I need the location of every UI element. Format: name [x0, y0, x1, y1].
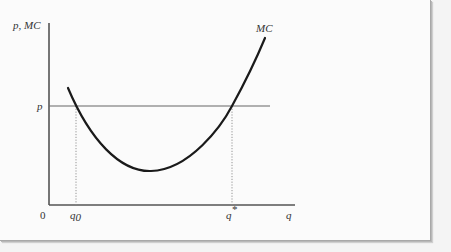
qstar-label-superscript: *	[232, 203, 238, 215]
x-axis-label: q	[286, 209, 292, 221]
price-label: p	[36, 100, 43, 112]
y-axis-label: p, MC	[12, 19, 41, 31]
mc-curve-label: MC	[255, 22, 273, 34]
mc-curve	[68, 38, 265, 171]
origin-label: 0	[40, 209, 46, 221]
mc-diagram: p, MC MC p 0 q0 q* q	[0, 0, 451, 252]
q0-label-subscript: 0	[76, 211, 82, 223]
diagram-card: p, MC MC p 0 q0 q* q	[0, 0, 431, 241]
q0-label: q0	[70, 209, 82, 223]
